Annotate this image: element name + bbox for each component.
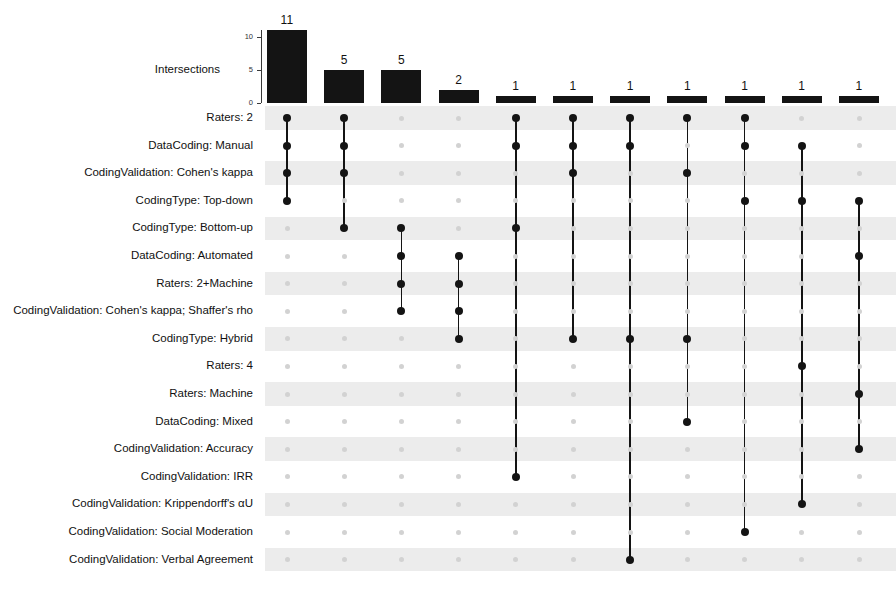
matrix-row-label: CodingType: Hybrid (0, 333, 253, 345)
matrix-dot-empty (685, 364, 690, 369)
intersection-bar (667, 96, 707, 103)
matrix-dot-empty (857, 530, 862, 535)
matrix-dot-empty (742, 419, 747, 424)
intersection-bar (381, 70, 421, 103)
matrix-dot-filled (741, 197, 749, 205)
matrix-dot-empty (571, 281, 576, 286)
matrix-dot-empty (399, 447, 404, 452)
matrix-dot-empty (285, 392, 290, 397)
matrix-row-label: CodingValidation: IRR (0, 471, 253, 483)
matrix-dot-empty (857, 226, 862, 231)
matrix-dot-empty (342, 364, 347, 369)
matrix-dot-empty (628, 198, 633, 203)
matrix-row-label: DataCoding: Automated (0, 250, 253, 262)
matrix-row-label: CodingType: Bottom-up (0, 222, 253, 234)
matrix-dot-empty (342, 392, 347, 397)
matrix-dot-empty (857, 116, 862, 121)
matrix-dot-empty (285, 419, 290, 424)
matrix-dot-empty (628, 392, 633, 397)
intersection-bar-value: 1 (715, 79, 775, 93)
matrix-dot-empty (628, 530, 633, 535)
matrix-dot-empty (399, 116, 404, 121)
matrix-dot-empty (456, 419, 461, 424)
matrix-dot-empty (513, 309, 518, 314)
matrix-dot-filled (283, 114, 291, 122)
matrix-dot-empty (857, 309, 862, 314)
matrix-dot-empty (857, 281, 862, 286)
matrix-dot-empty (399, 419, 404, 424)
matrix-dot-empty (742, 254, 747, 259)
y-axis-title: Intersections (60, 63, 220, 75)
matrix-dot-filled (397, 252, 405, 260)
matrix-dot-empty (799, 419, 804, 424)
matrix-dot-empty (456, 198, 461, 203)
matrix-dot-filled (798, 362, 806, 370)
matrix-dot-empty (685, 530, 690, 535)
matrix-dot-empty (456, 364, 461, 369)
matrix-dot-empty (685, 281, 690, 286)
matrix-dot-empty (456, 116, 461, 121)
matrix-dot-filled (626, 142, 634, 150)
matrix-dot-empty (342, 254, 347, 259)
matrix-dot-empty (628, 447, 633, 452)
matrix-dot-empty (456, 502, 461, 507)
matrix-dot-empty (857, 364, 862, 369)
matrix-dot-empty (799, 530, 804, 535)
matrix-dot-empty (342, 530, 347, 535)
matrix-row-label: CodingValidation: Cohen's kappa (0, 167, 253, 179)
matrix-dot-empty (285, 254, 290, 259)
intersection-bar (553, 96, 593, 103)
intersection-connector (687, 118, 689, 422)
matrix-dot-filled (455, 280, 463, 288)
matrix-dot-empty (685, 309, 690, 314)
matrix-dot-empty (399, 474, 404, 479)
matrix-dot-empty (571, 502, 576, 507)
intersection-bar (267, 30, 307, 103)
matrix-dot-empty (342, 474, 347, 479)
matrix-dot-empty (285, 447, 290, 452)
matrix-dot-empty (742, 392, 747, 397)
matrix-dot-empty (285, 226, 290, 231)
y-axis-tick-label: 0 (223, 98, 253, 107)
matrix-dot-filled (855, 197, 863, 205)
matrix-dot-empty (628, 309, 633, 314)
intersection-bar-value: 1 (600, 79, 660, 93)
matrix-dot-filled (741, 114, 749, 122)
matrix-dot-empty (628, 502, 633, 507)
matrix-row-label: Raters: 2 (0, 112, 253, 124)
matrix-row-label: CodingValidation: Social Moderation (0, 526, 253, 538)
matrix-row-label: CodingValidation: Krippendorff's αU (0, 498, 253, 510)
matrix-dot-empty (399, 530, 404, 535)
matrix-dot-filled (855, 252, 863, 260)
matrix-dot-empty (571, 254, 576, 259)
matrix-dot-empty (456, 447, 461, 452)
matrix-dot-empty (571, 530, 576, 535)
matrix-dot-empty (685, 226, 690, 231)
matrix-dot-empty (628, 474, 633, 479)
intersection-connector (858, 201, 860, 449)
matrix-dot-empty (571, 557, 576, 562)
intersection-bar (496, 96, 536, 103)
matrix-row-label: DataCoding: Mixed (0, 416, 253, 428)
matrix-dot-empty (456, 171, 461, 176)
matrix-dot-empty (513, 364, 518, 369)
matrix-dot-filled (626, 335, 634, 343)
matrix-dot-filled (512, 142, 520, 150)
matrix-dot-filled (512, 114, 520, 122)
matrix-row-label: CodingType: Top-down (0, 195, 253, 207)
matrix-dot-filled (455, 335, 463, 343)
matrix-dot-empty (685, 254, 690, 259)
matrix-dot-empty (742, 474, 747, 479)
intersection-bar (782, 96, 822, 103)
matrix-dot-empty (285, 474, 290, 479)
matrix-dot-empty (456, 474, 461, 479)
matrix-dot-empty (628, 171, 633, 176)
intersection-bar (324, 70, 364, 103)
matrix-row-label: Raters: 2+Machine (0, 278, 253, 290)
matrix-dot-empty (628, 364, 633, 369)
matrix-dot-empty (285, 530, 290, 535)
matrix-dot-filled (683, 418, 691, 426)
matrix-dot-empty (628, 226, 633, 231)
matrix-dot-empty (399, 198, 404, 203)
matrix-dot-empty (342, 419, 347, 424)
